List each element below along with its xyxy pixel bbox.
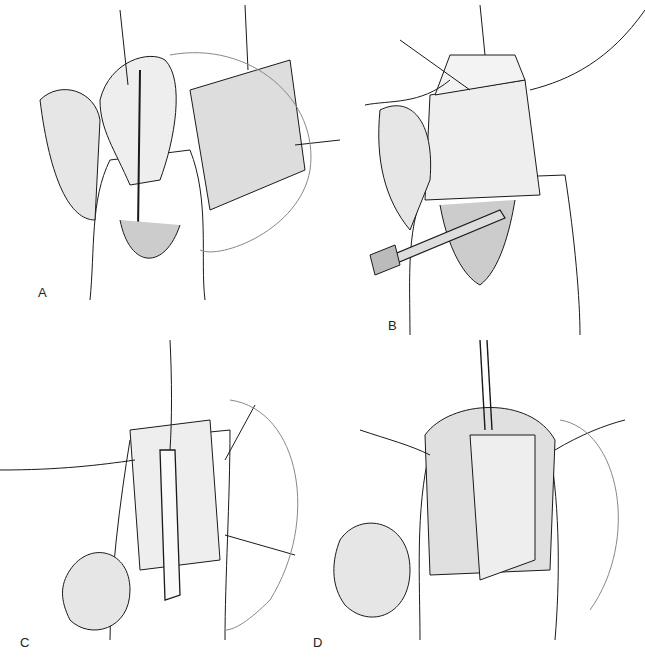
panel-label-d: D <box>313 635 322 650</box>
illustration-c <box>0 340 320 660</box>
panel-label-b: B <box>388 318 397 333</box>
panel-d: D <box>320 340 645 660</box>
illustration-d <box>320 340 645 660</box>
panel-label-a: A <box>38 285 47 300</box>
panel-c: C <box>0 340 320 660</box>
panel-label-c: C <box>20 635 29 650</box>
panel-b: B <box>340 0 645 340</box>
panel-a: A <box>0 0 340 310</box>
illustration-b <box>340 0 645 340</box>
illustration-a <box>0 0 340 310</box>
